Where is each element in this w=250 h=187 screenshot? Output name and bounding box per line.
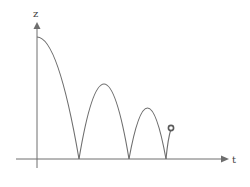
- z-axis-arrow-icon: [34, 22, 41, 29]
- t-axis-arrow-icon: [221, 156, 229, 163]
- bouncing-ball-diagram: z t: [0, 0, 250, 187]
- curve-bounce-1: [79, 84, 129, 159]
- z-axis-label: z: [33, 8, 38, 19]
- curve-bounce-2: [129, 108, 166, 159]
- t-axis-label: t: [232, 154, 236, 165]
- curve-final-rise: [166, 129, 171, 159]
- ball-marker-icon: [168, 125, 173, 130]
- curve-initial-fall: [37, 37, 79, 159]
